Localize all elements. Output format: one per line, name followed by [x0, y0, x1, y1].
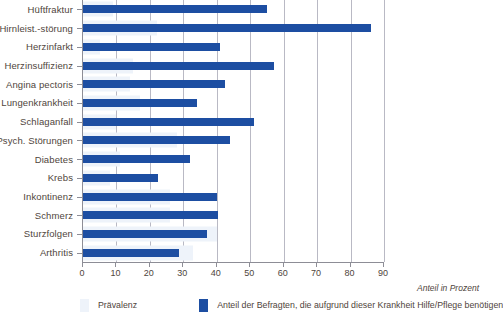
bar-row [83, 187, 384, 206]
bar-row [83, 150, 384, 169]
y-axis-label: Krebs [0, 168, 78, 187]
gridline [384, 0, 385, 262]
y-axis-category-labels: HüftfrakturHirnleist.-störungHerzinfarkt… [0, 0, 78, 262]
x-axis-tick [149, 263, 150, 267]
x-axis-tick-label: 60 [278, 268, 288, 278]
y-axis-label: Schlaganfall [0, 112, 78, 131]
bar-care-needed [83, 43, 220, 51]
bar-care-needed [83, 230, 207, 238]
legend-item-care-needed: Anteil der Befragten, die aufgrund diese… [199, 299, 503, 312]
y-axis-label: Hirnleist.-störung [0, 19, 78, 38]
bar-care-needed [83, 80, 225, 88]
plot-wrapper: HüftfrakturHirnleist.-störungHerzinfarkt… [0, 0, 497, 290]
legend-label-prevalence: Prävalenz [98, 300, 137, 310]
legend-item-prevalence: Prävalenz [80, 299, 137, 312]
x-axis-tick-label: 50 [244, 268, 254, 278]
bar-care-needed [83, 136, 230, 144]
x-axis-tick-label: 0 [79, 268, 84, 278]
bar-care-needed [83, 62, 274, 70]
x-axis-tick [216, 263, 217, 267]
x-axis-tick [115, 263, 116, 267]
y-axis-label: Inkontinenz [0, 187, 78, 206]
y-axis-label: Schmerz [0, 206, 78, 225]
y-axis-label: Hüftfraktur [0, 0, 78, 19]
bar-row [83, 206, 384, 225]
bar-row [83, 112, 384, 131]
x-axis-tick-label: 30 [177, 268, 187, 278]
y-axis-label: Arthritis [0, 243, 78, 262]
bar-row [83, 94, 384, 113]
y-axis-label: Psych. Störungen [0, 131, 78, 150]
bar-row [83, 37, 384, 56]
y-axis-label: Lungenkrankheit [0, 94, 78, 113]
bar-care-needed [83, 211, 218, 219]
x-axis-tick [350, 263, 351, 267]
bar-care-needed [83, 155, 190, 163]
legend-label-care-needed: Anteil der Befragten, die aufgrund diese… [217, 300, 503, 310]
y-axis-label: Sturzfolgen [0, 225, 78, 244]
x-axis: 0102030405060708090 [82, 263, 383, 285]
legend-swatch-care-needed-icon [199, 299, 208, 312]
bar-row [83, 0, 384, 19]
x-axis-tick-label: 70 [311, 268, 321, 278]
x-axis-tick [82, 263, 83, 267]
x-axis-title: Anteil in Prozent [417, 283, 479, 293]
x-axis-tick-label: 80 [345, 268, 355, 278]
x-axis-tick [249, 263, 250, 267]
y-axis-label: Diabetes [0, 150, 78, 169]
bar-row [83, 56, 384, 75]
bar-care-needed [83, 5, 267, 13]
bar-row [83, 225, 384, 244]
y-axis-label: Angina pectoris [0, 75, 78, 94]
y-axis-label: Herzinsuffizienz [0, 56, 78, 75]
plot-area [82, 0, 384, 263]
bar-care-needed [83, 174, 158, 182]
bar-care-needed [83, 118, 254, 126]
x-axis-tick [182, 263, 183, 267]
x-axis-tick [316, 263, 317, 267]
bar-row [83, 19, 384, 38]
x-axis-tick [283, 263, 284, 267]
bar-care-needed [83, 193, 217, 201]
bar-row [83, 168, 384, 187]
bar-row [83, 75, 384, 94]
x-axis-tick-label: 90 [378, 268, 388, 278]
chart-legend: Prävalenz Anteil der Befragten, die aufg… [0, 294, 497, 316]
bar-care-needed [83, 99, 197, 107]
bar-series-container [83, 0, 384, 262]
bar-row [83, 243, 384, 262]
x-axis-tick-label: 10 [110, 268, 120, 278]
y-axis-label: Herzinfarkt [0, 37, 78, 56]
x-axis-tick-label: 40 [211, 268, 221, 278]
bar-care-needed [83, 24, 371, 32]
x-axis-tick [383, 263, 384, 267]
bar-care-needed [83, 249, 179, 257]
legend-swatch-prevalence-icon [80, 299, 89, 312]
x-axis-tick-label: 20 [144, 268, 154, 278]
bar-row [83, 131, 384, 150]
